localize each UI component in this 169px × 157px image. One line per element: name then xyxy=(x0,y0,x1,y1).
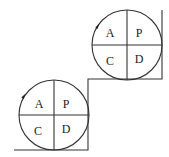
label-do: D xyxy=(135,52,144,66)
label-check: C xyxy=(34,124,42,138)
upper-pdca-circle: A P C D xyxy=(92,10,162,80)
label-act: A xyxy=(35,97,44,111)
label-do: D xyxy=(62,122,71,136)
lower-pdca-circle: A P C D xyxy=(19,80,89,150)
label-plan: P xyxy=(63,97,70,111)
pdca-diagram: A P C D A P C D xyxy=(0,0,169,157)
label-check: C xyxy=(106,54,114,68)
label-act: A xyxy=(106,26,115,40)
label-plan: P xyxy=(136,26,143,40)
